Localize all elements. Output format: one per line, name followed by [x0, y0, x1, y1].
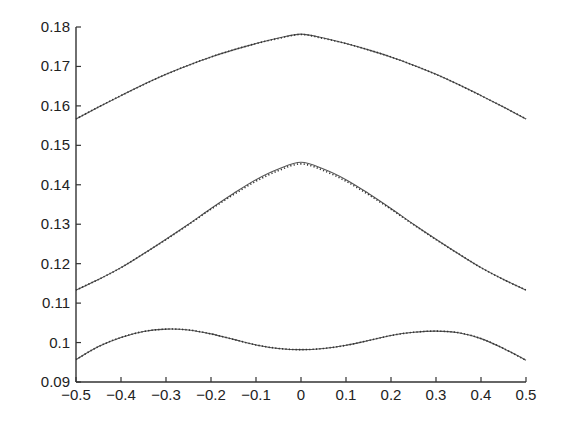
y-tick-label: 0.16: [41, 97, 70, 114]
series-line-upper-dotted: [76, 34, 526, 118]
series-line-lower-dotted: [76, 329, 526, 360]
series-line-middle-solid: [76, 162, 526, 290]
y-ticks: 0.090.10.110.120.130.140.150.160.170.18: [41, 18, 81, 390]
x-tick-label: 0.1: [336, 386, 357, 403]
series-line-upper-solid: [76, 34, 526, 119]
series-layer: [76, 34, 526, 360]
y-tick-label: 0.11: [42, 294, 70, 311]
y-tick-label: 0.17: [41, 57, 70, 74]
x-tick-label: −0.4: [106, 386, 136, 403]
y-tick-label: 0.09: [41, 373, 70, 390]
y-tick-label: 0.14: [41, 176, 70, 193]
x-tick-label: 0.4: [471, 386, 492, 403]
x-tick-label: 0.5: [516, 386, 537, 403]
x-tick-label: −0.2: [196, 386, 226, 403]
x-tick-label: 0.2: [381, 386, 402, 403]
series-line-middle-dotted: [76, 164, 526, 290]
y-tick-label: 0.15: [41, 136, 70, 153]
x-ticks: −0.5−0.4−0.3−0.2−0.100.10.20.30.40.5: [61, 377, 536, 403]
line-chart: −0.5−0.4−0.3−0.2−0.100.10.20.30.40.5 0.0…: [0, 0, 562, 426]
series-line-lower-solid: [76, 329, 526, 360]
x-tick-label: 0: [297, 386, 305, 403]
x-tick-label: 0.3: [426, 386, 447, 403]
x-tick-label: −0.3: [151, 386, 181, 403]
axes: [76, 27, 526, 382]
x-tick-label: −0.1: [241, 386, 271, 403]
y-tick-label: 0.18: [41, 18, 70, 35]
y-tick-label: 0.12: [41, 255, 70, 272]
y-tick-label: 0.13: [41, 215, 70, 232]
y-tick-label: 0.1: [49, 334, 70, 351]
